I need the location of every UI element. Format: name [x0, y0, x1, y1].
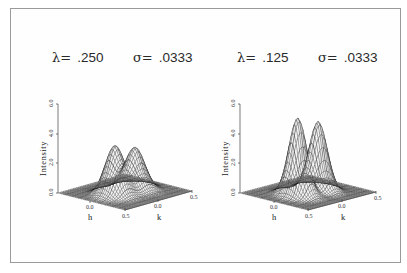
h-axis-label: h — [88, 212, 93, 222]
surface-mesh-2 — [240, 118, 376, 210]
z-tick: 4.0 — [230, 130, 236, 138]
z-tick: 0.0 — [230, 189, 236, 197]
surface-mesh-1 — [58, 146, 192, 210]
h-tick: 0.5 — [305, 213, 313, 219]
z-tick: 4.0 — [48, 130, 54, 138]
h-tick: 0.0 — [86, 204, 94, 210]
z-axis-label: Intensity — [220, 141, 230, 176]
k-axis-label: k — [157, 212, 162, 222]
z-tick: 6.0 — [230, 100, 236, 108]
k-tick: 0.0 — [338, 203, 346, 209]
z-tick: 6.0 — [48, 100, 54, 108]
h-axis-label: h — [272, 212, 277, 222]
z-tick: 0.0 — [48, 189, 54, 197]
k-tick: 0.5 — [190, 194, 198, 200]
h-tick: 0.5 — [122, 213, 130, 219]
k-tick: 0.0 — [154, 203, 162, 209]
z-tick: 2.0 — [230, 159, 236, 167]
z-tick: 2.0 — [48, 159, 54, 167]
z-axis-label: Intensity — [38, 141, 48, 176]
k-tick: 0.5 — [374, 195, 382, 201]
surface-plots: 0.0 2.0 4.0 6.0 Intensity 0.0 0.5 0.0 0.… — [0, 0, 407, 273]
h-tick: 0.0 — [270, 204, 278, 210]
k-axis-label: k — [341, 212, 346, 222]
